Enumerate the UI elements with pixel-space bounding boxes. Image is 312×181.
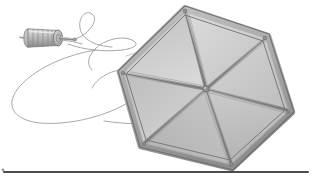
joint-bottom-left: [142, 142, 145, 145]
joint-bottom: [229, 162, 232, 165]
illustration-canvas: Hexagonal kite with string winder: [0, 0, 312, 181]
joint-right: [286, 110, 289, 113]
joint-top: [183, 9, 187, 13]
spool-handle-knob: [73, 38, 76, 41]
baseline-rule-left-dot: [2, 169, 5, 172]
spool-left-axle: [20, 37, 25, 38]
kite-illustration-svg: [0, 0, 312, 181]
joint-top-right: [263, 36, 267, 40]
kite-center-hub: [203, 86, 209, 92]
joint-left: [121, 71, 124, 74]
